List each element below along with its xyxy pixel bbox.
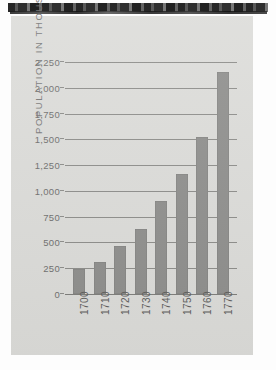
y-tick-label: 500 [43,237,60,248]
scanned-chart-page: POPULATION IN THOUSANDS 02505007501,0001… [0,0,276,370]
bar [94,262,106,294]
y-tick-label: 0 [54,289,60,300]
x-tick-label: 1740 [161,291,172,315]
bar-slot: 1710 [90,62,111,294]
y-tick-label: 250 [43,263,60,274]
chart-plot-area: 02505007501,0001,2501,5001,7502,0002,250… [65,62,237,294]
y-tick-mark [60,216,64,217]
bar [135,229,147,294]
x-tick-label: 1700 [79,291,90,315]
y-tick-label: 2,250 [35,57,60,68]
x-tick-label: 1750 [182,291,193,315]
y-tick-mark [60,87,64,88]
bars-group: 17001710172017301740175017601770 [65,62,237,294]
y-tick-label: 2,000 [35,82,60,93]
y-tick-mark [60,267,64,268]
bar-slot: 1740 [151,62,172,294]
x-tick-label: 1730 [141,291,152,315]
y-tick-mark [60,61,64,62]
y-tick-mark [60,113,64,114]
bar [176,174,188,294]
bar [155,201,167,294]
y-tick-label: 1,500 [35,134,60,145]
bar-slot: 1700 [69,62,90,294]
bar-slot: 1750 [172,62,193,294]
x-tick-label: 1710 [100,291,111,315]
bar-slot: 1770 [213,62,234,294]
bar-slot: 1730 [131,62,152,294]
y-tick-label: 1,250 [35,160,60,171]
bar-slot: 1760 [192,62,213,294]
y-tick-label: 750 [43,211,60,222]
bar [196,137,208,294]
y-tick-label: 1,000 [35,185,60,196]
y-tick-mark [60,241,64,242]
x-tick-label: 1770 [223,291,234,315]
y-tick-mark [60,138,64,139]
y-tick-mark [60,164,64,165]
bar [217,72,229,294]
scan-edge-top-line [10,11,267,14]
bar [114,246,126,294]
x-tick-label: 1720 [120,291,131,315]
y-tick-label: 1,750 [35,108,60,119]
y-tick-mark [60,190,64,191]
x-tick-label: 1760 [202,291,213,315]
bar-slot: 1720 [110,62,131,294]
page-sheet: POPULATION IN THOUSANDS 02505007501,0001… [11,16,253,355]
y-tick-mark [60,293,64,294]
